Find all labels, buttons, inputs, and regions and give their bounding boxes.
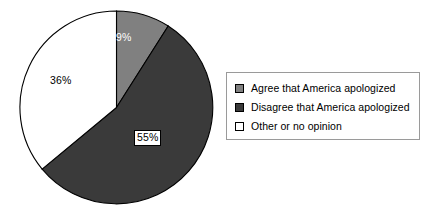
legend-item-other[interactable]: Other or no opinion xyxy=(235,117,419,135)
legend-label-agree: Agree that America apologized xyxy=(251,83,395,94)
legend-item-agree[interactable]: Agree that America apologized xyxy=(235,79,419,97)
pie-label-agree: 9% xyxy=(116,32,131,43)
pie-label-disagree: 55% xyxy=(134,130,161,146)
legend-swatch-other xyxy=(235,122,244,131)
chart-legend: Agree that America apologized Disagree t… xyxy=(226,72,420,140)
pie-chart-figure: 9% 36% 55% Agree that America apologized… xyxy=(0,0,435,217)
legend-swatch-agree xyxy=(235,84,244,93)
legend-swatch-disagree xyxy=(235,103,244,112)
legend-label-disagree: Disagree that America apologized xyxy=(251,102,410,113)
legend-label-other: Other or no opinion xyxy=(251,121,342,132)
legend-item-disagree[interactable]: Disagree that America apologized xyxy=(235,98,419,116)
pie-label-other: 36% xyxy=(50,75,71,86)
